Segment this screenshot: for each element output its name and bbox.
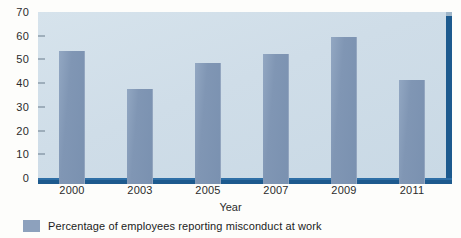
legend-label: Percentage of employees reporting miscon…	[48, 220, 322, 232]
y-axis-tick-mark	[38, 59, 45, 60]
y-axis-tick-mark	[38, 130, 45, 131]
x-axis-tick-label: 2007	[263, 184, 288, 196]
bar-2005	[195, 63, 221, 184]
y-axis-tick-label: 30	[16, 101, 29, 113]
bar-2000	[59, 51, 85, 184]
legend-color-swatch	[23, 220, 40, 232]
bar-2003	[127, 89, 153, 184]
bar-2009	[331, 37, 357, 184]
y-axis-tick-mark	[38, 154, 45, 155]
x-axis-title: Year	[0, 201, 461, 213]
x-axis-tick-label: 2009	[331, 184, 356, 196]
x-axis-baseline-highlight	[38, 178, 452, 180]
y-axis-tick-label: 70	[16, 6, 29, 18]
bar-2011	[399, 80, 425, 184]
y-axis-tick-label: 10	[16, 148, 29, 160]
x-axis-tick-label: 2005	[195, 184, 220, 196]
y-axis-tick-mark	[38, 35, 45, 36]
y-axis-tick-label: 40	[16, 77, 29, 89]
y-axis-tick-mark	[38, 83, 45, 84]
x-axis-tick-label: 2000	[59, 184, 84, 196]
y-axis-tick-mark	[38, 106, 45, 107]
y-axis-tick-label: 60	[16, 30, 29, 42]
chart-legend: Percentage of employees reporting miscon…	[23, 220, 322, 232]
y-axis-tick-label: 0	[23, 172, 29, 184]
plot-frame: 010203040506070	[38, 12, 453, 184]
x-axis-tick-label: 2003	[127, 184, 152, 196]
y-axis-tick-label: 20	[16, 125, 29, 137]
bar-2007	[263, 54, 289, 184]
plot-area	[38, 12, 446, 178]
bar-chart-figure: 010203040506070 200020032005200720092011…	[0, 0, 461, 238]
y-axis-tick-label: 50	[16, 53, 29, 65]
x-axis-tick-label: 2011	[400, 184, 424, 196]
plot-3d-right-edge	[446, 16, 452, 184]
